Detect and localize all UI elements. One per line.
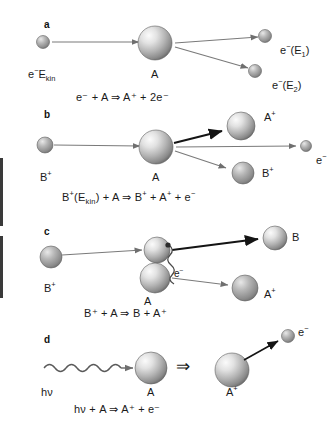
panel-letter-d: d	[44, 335, 50, 345]
panel-a-incoming-energy-sub: kin	[46, 74, 56, 83]
panel-c-target-label: A	[144, 296, 151, 307]
panel-c-transferred-electron-charge: −	[180, 267, 184, 274]
panel-b-incoming-label: B+	[40, 172, 52, 183]
panel-letter-a: a	[44, 20, 50, 30]
panel-b-product-ion-charge: +	[271, 109, 275, 118]
panel-a-out1-energy: (E	[291, 44, 302, 56]
panel-c-equation: B⁺ + A ⇒ B + A⁺	[84, 308, 167, 319]
panel-d-product-ion-charge: +	[233, 384, 237, 393]
panel-d-graphics	[44, 330, 295, 388]
panel-d-photon-nu: ν	[47, 386, 53, 398]
panel-a-outgoing-electron-2: e−(E2)	[272, 80, 301, 91]
panel-a-outgoing-electron-1: e−(E1)	[280, 45, 309, 56]
diagram-vector-layer	[0, 0, 335, 426]
panel-a-target-label: A	[151, 69, 158, 80]
figure-canvas: a e−Ekin A e−(E1) e−(E2) e⁻ + A ⇒ A⁺ + 2…	[0, 0, 335, 426]
panel-d-photon-label: hν	[41, 387, 53, 398]
panel-a-incoming-energy: E	[39, 68, 46, 80]
panel-b-ejected-electron-label: e−	[316, 155, 327, 166]
panel-a-incoming-label: e−Ekin	[28, 69, 55, 80]
panel-d-equation: hν + A ⇒ A⁺ + e⁻	[74, 404, 161, 415]
panel-b-product-ion-label: A+	[264, 112, 276, 123]
panel-c-incoming-charge: +	[51, 280, 55, 289]
panel-a-equation: e⁻ + A ⇒ A⁺ + 2e⁻	[76, 92, 169, 103]
panel-b-incoming-charge: +	[47, 169, 51, 178]
panel-d-product-ion-label: A+	[226, 387, 238, 398]
panel-b-eq-charge4: −	[191, 189, 196, 198]
panel-d-ejected-electron-label: e−	[298, 327, 309, 338]
panel-b-eq-sub-kin: kin	[86, 197, 96, 206]
panel-d-ejected-electron-charge: −	[304, 324, 308, 333]
panel-letter-c: c	[44, 227, 50, 237]
panel-c-product-neutral-label: B	[292, 232, 299, 243]
panel-c-transferred-electron-label: e−	[174, 269, 184, 279]
panel-c-graphics	[40, 226, 287, 301]
panel-b-eq-charge3: +	[167, 189, 172, 198]
panel-b-eq-charge2: +	[142, 189, 147, 198]
panel-c-incoming-label: B+	[44, 283, 56, 294]
panel-a-out2-paren: )	[298, 79, 302, 91]
panel-letter-b: b	[44, 110, 50, 120]
panel-b-equation: B+(Ekin) + A ⇒ B+ + A+ + e−	[62, 192, 195, 203]
panel-a-out1-paren: )	[306, 44, 310, 56]
panel-c-product-ion-label: A+	[264, 289, 276, 300]
panel-b-ejected-electron-charge: −	[322, 152, 326, 161]
panel-b-target-label: A	[152, 172, 159, 183]
panel-a-out2-energy: (E	[283, 79, 294, 91]
panel-d-implies-arrow: ⇒	[176, 358, 190, 375]
panel-d-target-label: A	[147, 387, 154, 398]
panel-b-scattered-ion-charge: +	[269, 165, 273, 174]
panel-c-product-ion-charge: +	[271, 286, 275, 295]
panel-b-eq-charge1: +	[70, 189, 75, 198]
panel-b-scattered-ion-label: B+	[262, 168, 274, 179]
